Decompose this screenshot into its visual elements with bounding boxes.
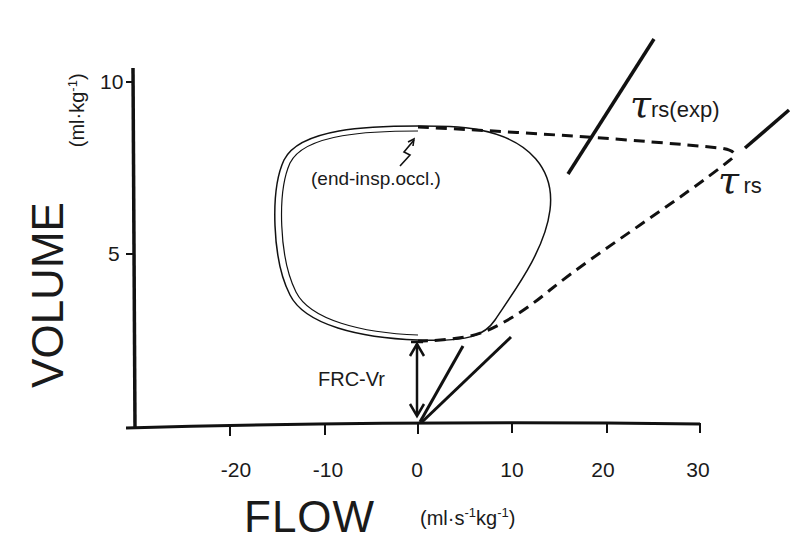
x-axis-units: (ml·s-1kg-1)	[420, 505, 515, 530]
y-tick-label-5: 5	[108, 242, 120, 266]
x-axis	[126, 423, 700, 428]
end-insp-occl-arrow	[400, 139, 414, 166]
y-axis-units: (ml·kg-1)	[65, 45, 90, 175]
x-tick-label-10: 10	[500, 458, 523, 482]
y-axis-title: VOLUME	[23, 195, 73, 395]
end-insp-occl-label: (end-insp.occl.)	[311, 168, 441, 190]
x-tick-label-neg10: -10	[313, 458, 343, 482]
flow-volume-loop-outer	[275, 126, 551, 340]
x-tick-label-30: 30	[686, 458, 709, 482]
x-tick-label-20: 20	[591, 458, 614, 482]
frc-vr-label: FRC-Vr	[318, 368, 385, 391]
x-axis-title: FLOW	[244, 492, 375, 542]
origin-line-shallow	[422, 337, 511, 422]
origin-line-steep	[420, 346, 463, 422]
y-axis	[133, 68, 135, 428]
tau-rs-label: τ rs	[718, 158, 762, 202]
x-tick-label-0: 0	[411, 458, 423, 482]
x-tick-label-neg20: -20	[221, 458, 251, 482]
y-tick-label-10: 10	[100, 70, 123, 94]
tau-rs-line	[745, 110, 789, 148]
frc-vr-double-arrow	[410, 342, 424, 416]
flow-volume-loop-inner	[282, 131, 418, 335]
tau-rs-exp-label: τrs(exp)	[630, 82, 719, 126]
